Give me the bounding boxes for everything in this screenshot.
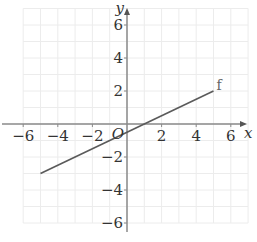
y-axis-label: y bbox=[115, 0, 125, 17]
y-tick-label: 4 bbox=[113, 49, 123, 67]
y-tick-label: 2 bbox=[113, 82, 123, 100]
y-tick-label: 6 bbox=[113, 16, 123, 34]
y-axis-arrow-icon bbox=[124, 8, 130, 15]
labels: −6−4−2246−6−4−2246xyOf bbox=[12, 0, 253, 232]
grid bbox=[23, 9, 248, 224]
x-tick-label: 6 bbox=[226, 127, 236, 145]
x-axis-label: x bbox=[244, 124, 253, 142]
coordinate-plane: −6−4−2246−6−4−2246xyOf bbox=[0, 0, 257, 242]
x-tick-label: 4 bbox=[191, 127, 201, 145]
x-tick-label: −4 bbox=[47, 127, 69, 145]
x-tick-label: −2 bbox=[81, 127, 103, 145]
y-tick-label: −4 bbox=[101, 181, 123, 199]
y-tick-label: −6 bbox=[101, 214, 123, 232]
x-tick-label: −6 bbox=[12, 127, 34, 145]
origin-label: O bbox=[112, 125, 124, 143]
x-tick-label: 2 bbox=[157, 127, 167, 145]
y-tick-label: −2 bbox=[101, 148, 123, 166]
